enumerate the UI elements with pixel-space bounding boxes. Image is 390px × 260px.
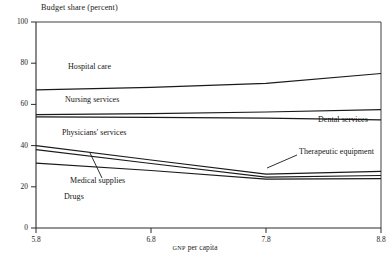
series-line-nursing-services	[36, 110, 381, 115]
annotation-therapeutic-equipment: Therapeutic equipment	[299, 147, 374, 156]
y-tick-label-60: 60	[2, 99, 28, 108]
x-axis-title: GNP per capita	[0, 243, 390, 252]
series-lines	[36, 74, 381, 180]
leader-line-therapeutic-equipment	[267, 155, 297, 168]
x-axis-title-rest: per capita	[186, 243, 218, 252]
plot-area	[0, 0, 390, 260]
y-tick-label-100: 100	[2, 17, 28, 26]
y-tick-label-80: 80	[2, 58, 28, 67]
chart-figure: Budget share (percent)	[0, 0, 390, 260]
annotation-hospital-care: Hospital care	[68, 62, 111, 71]
annotation-physicians-services: Physicians' services	[62, 128, 126, 137]
annotation-nursing-services: Nursing services	[65, 95, 119, 104]
y-tick-label-40: 40	[2, 141, 28, 150]
annotation-drugs: Drugs	[64, 192, 84, 201]
annotation-dental-services: Dental services	[318, 115, 368, 124]
y-tick-label-20: 20	[2, 182, 28, 191]
x-axis-title-prefix: GNP	[172, 244, 185, 251]
series-line-hospital-care	[36, 74, 381, 90]
y-tick-label-0: 0	[2, 223, 28, 232]
annotation-medical-supplies: Medical supplies	[70, 176, 125, 185]
y-axis-ticks	[31, 22, 36, 228]
x-axis-ticks	[36, 228, 381, 233]
